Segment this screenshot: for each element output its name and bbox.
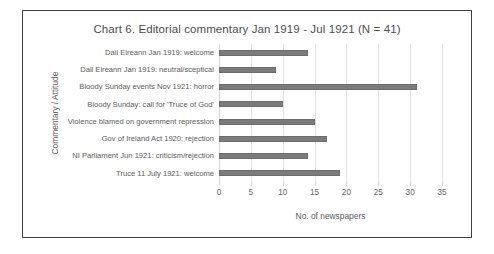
x-axis-tick-label: 35 bbox=[437, 188, 446, 197]
x-axis-tick-label: 20 bbox=[342, 188, 351, 197]
bar bbox=[219, 101, 283, 107]
y-axis-title-label: Commentary / Attitude bbox=[50, 72, 60, 155]
x-axis-tick-mark bbox=[219, 182, 220, 186]
bar-row: Violence blamed on government repression bbox=[219, 113, 442, 130]
bar bbox=[219, 67, 276, 73]
y-axis-category-label: Bloody Sunday: call for 'Truce of God' bbox=[87, 101, 214, 109]
x-axis-tick-mark bbox=[442, 182, 443, 186]
x-axis-tick-mark bbox=[378, 182, 379, 186]
bar bbox=[219, 136, 327, 142]
chart-container: Chart 6. Editorial commentary Jan 1919 -… bbox=[22, 10, 472, 238]
x-axis-tick-label: 15 bbox=[310, 188, 319, 197]
bar-row: NI Parliament Jun 1921: criticism/reject… bbox=[219, 148, 442, 165]
bar-row: Dail Eireann Jan 1919: welcome bbox=[219, 44, 442, 61]
bar bbox=[219, 50, 308, 56]
x-axis-tick-label: 10 bbox=[278, 188, 287, 197]
x-axis-tick-label: 25 bbox=[374, 188, 383, 197]
bar-row: Dail Eireann Jan 1919: neutral/sceptical bbox=[219, 61, 442, 78]
plot-area: 05101520253035Dail Eireann Jan 1919: wel… bbox=[219, 44, 442, 182]
x-axis-tick-label: 5 bbox=[249, 188, 254, 197]
y-axis-category-label: Bloody Sunday events Nov 1921: horror bbox=[79, 83, 214, 91]
x-axis-tick-mark bbox=[410, 182, 411, 186]
bar-row: Gov of Ireland Act 1920: rejection bbox=[219, 130, 442, 147]
x-axis-tick-label: 30 bbox=[406, 188, 415, 197]
y-axis-title: Commentary / Attitude bbox=[49, 44, 61, 182]
bar-row: Truce 11 July 1921: welcome bbox=[219, 165, 442, 182]
bar-row: Bloody Sunday: call for 'Truce of God' bbox=[219, 96, 442, 113]
y-axis-category-label: Gov of Ireland Act 1920: rejection bbox=[102, 135, 214, 143]
x-axis-tick-mark bbox=[346, 182, 347, 186]
x-axis-tick-mark bbox=[283, 182, 284, 186]
bar bbox=[219, 84, 417, 90]
y-axis-category-label: Dail Eireann Jan 1919: welcome bbox=[105, 49, 214, 57]
y-axis-category-label: Dail Eireann Jan 1919: neutral/sceptical bbox=[80, 66, 214, 74]
y-axis-category-label: NI Parliament Jun 1921: criticism/reject… bbox=[72, 152, 214, 160]
x-axis-title: No. of newspapers bbox=[219, 211, 442, 221]
y-axis-category-label: Truce 11 July 1921: welcome bbox=[116, 170, 214, 178]
bar bbox=[219, 119, 315, 125]
x-axis-tick-mark bbox=[251, 182, 252, 186]
bar bbox=[219, 170, 340, 176]
bar-row: Bloody Sunday events Nov 1921: horror bbox=[219, 79, 442, 96]
chart-title: Chart 6. Editorial commentary Jan 1919 -… bbox=[23, 23, 471, 35]
x-axis-tick-label: 0 bbox=[217, 188, 222, 197]
bar bbox=[219, 153, 308, 159]
gridline bbox=[442, 44, 443, 182]
y-axis-category-label: Violence blamed on government repression bbox=[68, 118, 214, 126]
x-axis-tick-mark bbox=[315, 182, 316, 186]
